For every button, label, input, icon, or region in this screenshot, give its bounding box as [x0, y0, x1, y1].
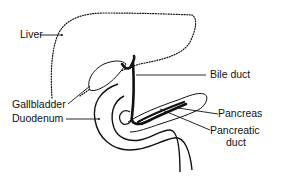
pancreatic-duct-shape [138, 102, 184, 122]
pancreatic-duct-leader [160, 109, 210, 130]
pancreatic-duct-label-line2: duct [226, 137, 246, 148]
duodenum-leader-dot [98, 118, 100, 120]
papilla-loop [120, 111, 132, 125]
duodenum-outer [94, 84, 192, 170]
anatomy-diagram [0, 0, 281, 180]
gallbladder-leader [68, 86, 90, 104]
gallbladder-label: Gallbladder [12, 99, 66, 110]
liver-leader-dot [61, 34, 63, 36]
liver-outline [51, 13, 195, 98]
pancreas-leader [178, 108, 218, 114]
gallbladder-shape [89, 61, 126, 91]
pancreas-label: Pancreas [218, 108, 262, 119]
bile-duct-label: Bile duct [210, 69, 250, 80]
duodenum-label: Duodenum [12, 113, 63, 124]
liver-label: Liver [20, 29, 43, 40]
pancreatic-duct-label-line1: Pancreatic [210, 125, 260, 136]
